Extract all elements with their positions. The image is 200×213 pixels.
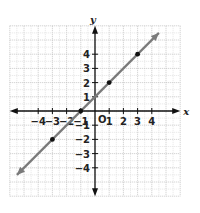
x-tick-label: 2 (120, 116, 127, 127)
coordinate-plane: −4−3−2−11234−4−3−2−11234Oxy (0, 0, 200, 213)
y-tick-label: −1 (75, 120, 90, 131)
data-point (107, 80, 112, 85)
y-tick-label: 3 (83, 63, 90, 74)
y-axis-up-arrow-icon (92, 26, 98, 34)
y-tick-label: 4 (83, 49, 90, 60)
y-tick-label: −4 (75, 163, 90, 174)
data-point (78, 109, 83, 114)
data-point (135, 52, 140, 57)
x-tick-label: 4 (148, 116, 155, 127)
graph-svg: −4−3−2−11234−4−3−2−11234Oxy (0, 0, 200, 213)
data-point (50, 137, 55, 142)
axes: −4−3−2−11234−4−3−2−11234Oxy (10, 14, 190, 196)
y-tick-label: −2 (75, 134, 90, 145)
x-tick-label: −3 (45, 116, 60, 127)
y-tick-label: 1 (83, 92, 90, 103)
x-axis-label: x (182, 106, 190, 117)
y-tick-label: −3 (75, 149, 90, 160)
x-tick-label: −4 (31, 116, 46, 127)
y-tick-label: 2 (83, 78, 90, 89)
origin-label: O (98, 114, 107, 125)
x-axis-right-arrow-icon (172, 108, 180, 114)
x-axis-left-arrow-icon (10, 108, 18, 114)
x-tick-label: 3 (134, 116, 141, 127)
y-axis-label: y (89, 14, 97, 25)
x-tick-label: 1 (106, 116, 113, 127)
y-axis-down-arrow-icon (92, 188, 98, 196)
